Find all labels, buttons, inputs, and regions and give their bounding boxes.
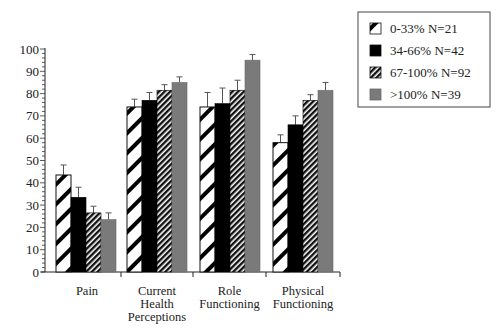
y-tick-label: 70 — [26, 108, 39, 123]
bar — [142, 100, 157, 272]
category-label: Functioning — [273, 297, 334, 311]
bar — [303, 100, 318, 272]
bar — [200, 107, 215, 272]
category-label: Current — [138, 284, 177, 298]
legend: 0-33% N=2134-66% N=4267-100% N=92>100% N… — [358, 12, 490, 107]
legend-label: 67-100% N=92 — [390, 65, 471, 80]
bar — [101, 220, 116, 272]
category-label: Role — [218, 284, 242, 298]
y-tick-label: 50 — [26, 153, 39, 168]
x-axis-labels: PainCurrentHealthPerceptionsRoleFunction… — [76, 284, 334, 324]
bars — [56, 55, 333, 272]
bar — [56, 175, 71, 272]
legend-label: 34-66% N=42 — [390, 43, 464, 58]
y-tick-label: 0 — [33, 265, 40, 280]
category-label: Physical — [282, 284, 325, 298]
bar — [245, 60, 260, 272]
category-label: Pain — [76, 284, 99, 298]
bar-chart: 0102030405060708090100 PainCurrentHealth… — [0, 0, 497, 335]
bar — [273, 143, 288, 272]
legend-swatch — [370, 89, 381, 100]
legend-label: >100% N=39 — [390, 87, 461, 102]
y-tick-label: 10 — [26, 242, 39, 257]
y-tick-label: 100 — [20, 42, 40, 57]
legend-swatch — [370, 67, 381, 78]
bar — [157, 90, 172, 272]
bar — [215, 104, 230, 272]
bar — [86, 213, 101, 272]
category-label: Perceptions — [128, 310, 186, 324]
legend-label: 0-33% N=21 — [390, 21, 458, 36]
category-label: Health — [140, 297, 174, 311]
bar — [318, 90, 333, 272]
category-label: Functioning — [199, 297, 260, 311]
legend-swatch — [370, 45, 381, 56]
bar — [172, 82, 187, 272]
bar — [127, 107, 142, 272]
bar — [230, 90, 245, 272]
y-tick-label: 40 — [26, 175, 39, 190]
y-tick-label: 90 — [26, 64, 39, 79]
legend-swatch — [370, 23, 381, 34]
bar — [71, 197, 86, 272]
y-tick-label: 20 — [26, 220, 39, 235]
y-tick-label: 30 — [26, 198, 39, 213]
bar — [288, 125, 303, 272]
y-tick-label: 60 — [26, 131, 39, 146]
y-tick-label: 80 — [26, 86, 39, 101]
